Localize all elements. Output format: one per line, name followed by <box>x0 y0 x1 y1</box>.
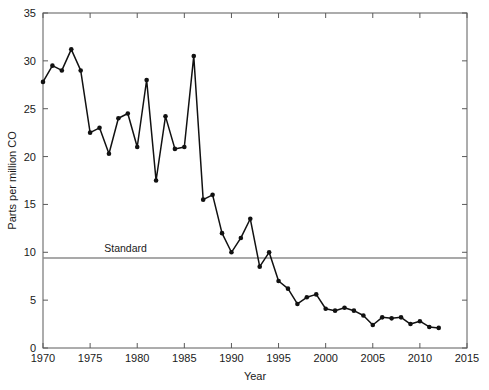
data-point <box>60 68 65 73</box>
x-tick-label: 1990 <box>219 352 243 364</box>
plot-frame <box>43 13 467 348</box>
y-tick-label: 5 <box>30 294 36 306</box>
data-point <box>427 325 432 330</box>
data-point <box>154 178 159 183</box>
data-point <box>305 295 310 300</box>
data-point <box>286 286 291 291</box>
data-point <box>248 216 253 221</box>
data-point <box>389 316 394 321</box>
y-tick-label: 30 <box>24 55 36 67</box>
data-point <box>97 126 102 131</box>
data-point <box>323 306 328 311</box>
data-point <box>78 68 83 73</box>
data-point <box>267 250 272 255</box>
data-point <box>220 231 225 236</box>
y-tick-label: 35 <box>24 7 36 19</box>
x-tick-label: 1980 <box>125 352 149 364</box>
data-point <box>408 322 413 327</box>
data-point <box>361 313 366 318</box>
standard-label: Standard <box>104 242 147 254</box>
y-tick-label: 0 <box>30 342 36 354</box>
data-point <box>239 236 244 241</box>
data-point <box>107 151 112 156</box>
co-trend-chart: 1970197519801985199019952000200520102015… <box>0 0 489 390</box>
x-tick-label: 1975 <box>78 352 102 364</box>
x-tick-label: 1985 <box>172 352 196 364</box>
x-tick-label: 2000 <box>313 352 337 364</box>
data-point <box>314 292 319 297</box>
data-point <box>163 114 168 119</box>
data-point <box>370 323 375 328</box>
y-tick-label: 15 <box>24 198 36 210</box>
chart-canvas: 1970197519801985199019952000200520102015… <box>0 0 489 390</box>
data-point <box>342 306 347 311</box>
data-point <box>191 54 196 59</box>
data-point <box>210 193 215 198</box>
y-axis-title: Parts per million CO <box>6 131 18 230</box>
data-point <box>257 264 262 269</box>
y-tick-label: 20 <box>24 151 36 163</box>
data-point <box>436 326 441 331</box>
data-point <box>173 147 178 152</box>
y-tick-label: 10 <box>24 246 36 258</box>
series-line <box>43 49 439 328</box>
data-point <box>399 315 404 320</box>
x-tick-label: 2010 <box>408 352 432 364</box>
data-point <box>418 319 423 324</box>
data-point <box>352 308 357 313</box>
y-tick-label: 25 <box>24 103 36 115</box>
data-point <box>380 315 385 320</box>
data-point <box>88 130 93 135</box>
data-point <box>126 111 131 116</box>
data-point <box>135 145 140 150</box>
data-point <box>276 279 281 284</box>
data-point <box>201 197 206 202</box>
data-point <box>182 145 187 150</box>
data-point <box>229 250 234 255</box>
data-point <box>41 80 46 85</box>
x-axis-title: Year <box>244 370 267 382</box>
data-point <box>333 308 338 313</box>
data-point <box>50 63 55 68</box>
x-tick-label: 2015 <box>455 352 479 364</box>
data-point <box>69 47 74 52</box>
x-tick-label: 2005 <box>361 352 385 364</box>
data-point <box>116 116 121 121</box>
data-point <box>295 302 300 307</box>
data-point <box>144 78 149 83</box>
x-tick-label: 1995 <box>266 352 290 364</box>
